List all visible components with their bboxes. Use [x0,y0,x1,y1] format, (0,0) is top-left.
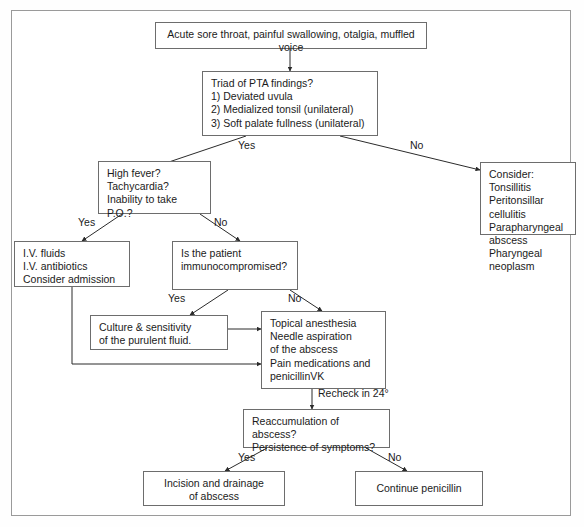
edge-label-final-no: No [388,451,401,463]
edge-label-immuno-yes: Yes [168,292,185,304]
edge-label-recheck-interval: Recheck in 24° [318,387,389,399]
node-continue-penicillin: Continue penicillin [355,471,483,506]
edge-label-severity-yes: Yes [78,216,95,228]
edge-label-final-yes: Yes [238,451,255,463]
edge-label-severity-no: No [214,216,227,228]
edge-label-triad-no: No [410,139,423,151]
node-severity-question: High fever? Tachycardia? Inability to ta… [98,161,211,214]
edge-label-triad-yes: Yes [238,139,255,151]
node-consider-differential: Consider: Tonsillitis Peritonsillar cell… [480,162,576,235]
node-immunocompromised-question: Is the patient immunocompromised? [172,241,298,290]
node-iv-support: I.V. fluids I.V. antibiotics Consider ad… [14,241,130,287]
node-recheck-question: Reaccumulation of abscess? Persistence o… [243,409,390,448]
node-culture-sensitivity: Culture & sensitivity of the purulent fl… [90,315,228,350]
node-drainage-treatment: Topical anesthesia Needle aspiration of … [261,311,386,389]
node-incision-drainage: Incision and drainage of abscess [143,471,285,506]
node-presentation: Acute sore throat, painful swallowing, o… [155,22,427,49]
node-triad-question: Triad of PTA findings? 1) Deviated uvula… [202,71,378,136]
edge-label-immuno-no: No [288,292,301,304]
flowchart-canvas: Acute sore throat, painful swallowing, o… [0,0,584,527]
